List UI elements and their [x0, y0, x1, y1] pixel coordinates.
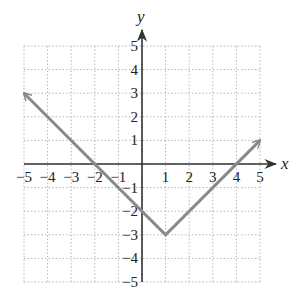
x-tick-label: 2 — [185, 169, 193, 185]
x-tick-label: −4 — [40, 169, 56, 185]
y-tick-label: 5 — [131, 38, 139, 54]
x-tick-label: −3 — [63, 169, 79, 185]
y-tick-label: −3 — [122, 227, 138, 243]
axes: xy — [24, 7, 289, 282]
y-tick-label: 1 — [131, 132, 139, 148]
y-axis-label: y — [135, 7, 145, 26]
x-axis-label: x — [280, 154, 289, 173]
x-tick-label: 3 — [209, 169, 217, 185]
y-tick-label: 3 — [131, 85, 139, 101]
coordinate-plane: xy −5−4−3−2−11234554321−1−2−3−4−5 — [0, 0, 299, 291]
y-tick-label: −4 — [122, 250, 138, 266]
x-tick-label: −5 — [16, 169, 32, 185]
x-tick-label: 5 — [256, 169, 264, 185]
y-tick-label: 4 — [131, 62, 139, 78]
x-tick-label: 4 — [233, 169, 241, 185]
y-tick-label: 2 — [131, 109, 139, 125]
y-tick-label: −5 — [122, 274, 138, 290]
x-tick-label: 1 — [162, 169, 170, 185]
